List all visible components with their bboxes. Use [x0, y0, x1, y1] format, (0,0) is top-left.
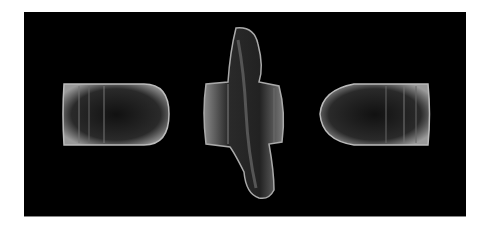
left-bullet: [63, 84, 169, 145]
bullets-illustration: [24, 12, 466, 216]
center-deformed-bullet: [204, 28, 283, 199]
right-bullet: [320, 84, 430, 145]
photo-panel: [24, 12, 466, 217]
